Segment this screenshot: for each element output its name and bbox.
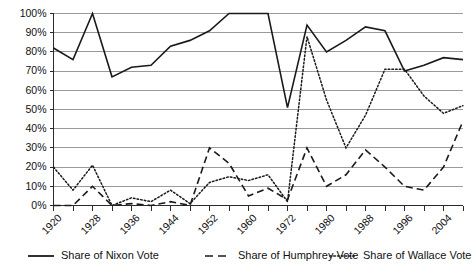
series-line-humphrey: [54, 121, 464, 205]
x-axis-tick-label: 1960: [234, 211, 259, 236]
x-axis-ticks-group: [54, 206, 464, 211]
y-axis-tick-label: 30%: [25, 141, 46, 153]
x-axis-tick-label: 1944: [156, 211, 181, 236]
line-chart: 0%10%20%30%40%50%60%70%80%90%100% 192019…: [0, 0, 476, 274]
legend-label: Share of Humphrey Vote: [238, 249, 358, 261]
x-axis-tick-label: 1920: [39, 211, 64, 236]
y-axis-labels-group: 0%10%20%30%40%50%60%70%80%90%100%: [20, 7, 47, 211]
x-axis-tick-label: 1928: [78, 211, 103, 236]
y-axis-tick-label: 10%: [25, 180, 46, 192]
x-axis-tick-label: 1972: [273, 211, 298, 236]
chart-container: 0%10%20%30%40%50%60%70%80%90%100% 192019…: [0, 0, 476, 274]
y-axis-tick-label: 80%: [25, 45, 46, 57]
y-axis-tick-label: 70%: [25, 64, 46, 76]
series-line-nixon: [54, 14, 464, 108]
x-axis-tick-label: 1980: [312, 211, 337, 236]
legend-label: Share of Wallace Vote: [363, 249, 471, 261]
series-line-wallace: [54, 37, 464, 206]
y-axis-tick-label: 60%: [25, 84, 46, 96]
x-axis-tick-label: 1996: [390, 211, 415, 236]
gridlines-group: [54, 14, 464, 206]
y-axis-tick-label: 90%: [25, 26, 46, 38]
chart-legend: Share of Nixon VoteShare of Humphrey Vot…: [28, 249, 471, 261]
y-axis-tick-label: 20%: [25, 160, 46, 172]
x-axis-tick-label: 1936: [117, 211, 142, 236]
y-axis-tick-label: 50%: [25, 103, 46, 115]
y-axis-tick-label: 40%: [25, 122, 46, 134]
y-axis-tick-label: 0%: [31, 199, 46, 211]
x-axis-tick-label: 2004: [429, 211, 454, 236]
legend-label: Share of Nixon Vote: [61, 249, 159, 261]
x-axis-labels-group: 1920192819361944195219601972198019881996…: [39, 211, 454, 236]
x-axis-tick-label: 1952: [195, 211, 220, 236]
x-axis-tick-label: 1988: [351, 211, 376, 236]
y-axis-tick-label: 100%: [20, 7, 47, 19]
